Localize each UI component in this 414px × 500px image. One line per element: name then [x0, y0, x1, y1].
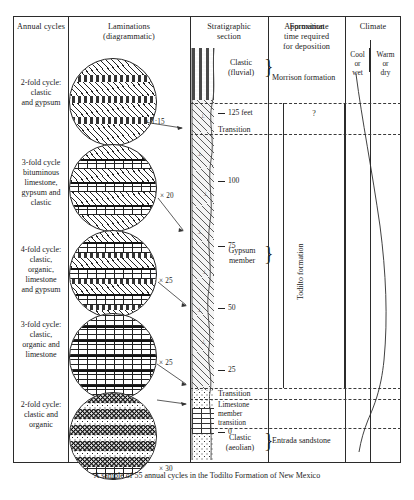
header-stratigraphic-line2: section	[191, 32, 267, 42]
climate-cool-or: or	[345, 59, 370, 68]
cycle-4fold-l1: 4-fold cycle:	[14, 245, 68, 255]
band-3fl-limestone-5	[69, 372, 157, 385]
header-approx-line1: Approximate	[267, 22, 346, 32]
header-laminations: Laminations (diagrammatic)	[70, 22, 188, 42]
brace-gypsum-member: }	[264, 243, 274, 263]
band-clastic-dash-3	[69, 117, 157, 124]
header-approximate-time-group: Approximate time required for deposition	[267, 22, 346, 52]
section-label-clastic-fluvial: Clastic (fluvial)	[218, 58, 264, 78]
tick-mark-125	[218, 113, 225, 114]
band-b-hatch-4	[69, 215, 157, 231]
band-4f-limestone-1	[69, 244, 157, 253]
gypsum-symbol-3: ⊥	[203, 190, 208, 197]
section-label-limestone-member-transition: Limestone member transition	[218, 400, 270, 427]
climate-warm-dry: dry	[371, 68, 400, 77]
tick-label-25: 25	[228, 365, 236, 374]
band-gypsum-hatch	[69, 59, 157, 75]
magnification-3fold-limestone: × 25	[159, 359, 173, 367]
header-laminations-line2: (diagrammatic)	[70, 32, 188, 42]
band-b-hatch-1	[69, 145, 157, 159]
gypsum-symbol-2: ⊥	[197, 150, 202, 157]
cycle-2fold-gypsum-l3: and gypsum	[14, 98, 68, 108]
climate-heading-divider	[369, 48, 370, 72]
gypsum-member-l2: member	[218, 256, 266, 266]
depth-tick-50: 50	[218, 303, 236, 312]
header-stratigraphic-section: Stratigraphic section	[191, 22, 267, 42]
depth-tick-25: 25	[218, 365, 236, 374]
entrada-sandstone-text: Entrada sandstone	[272, 436, 346, 446]
header-annual-cycles: Annual cycles	[14, 22, 68, 32]
strat-seg-clastic-fluvial	[192, 48, 214, 100]
boundary-transition-limestone	[190, 399, 401, 400]
depth-tick-125: 125 feet	[218, 108, 253, 117]
column-divider-2	[190, 16, 191, 463]
header-laminations-line1: Laminations	[70, 22, 188, 32]
band-gypsum-hatch-3	[69, 103, 157, 117]
header-annual-cycles-line1: Annual cycles	[14, 22, 68, 32]
depth-tick-100: 100	[218, 176, 239, 185]
band-gypsum-hatch-4	[69, 124, 157, 145]
tick-mark-100	[218, 181, 225, 182]
cycle-3fold-bit-l4: gypsum and	[14, 188, 68, 198]
cycle-2fold-org-l1: 2-fold cycle:	[14, 400, 68, 410]
band-4f-limestone-2	[69, 270, 157, 279]
header-stratigraphic-line1: Stratigraphic	[191, 22, 267, 32]
cycle-3fold-ls-l1: 3-fold cycle:	[14, 320, 68, 330]
climate-warm-or: or	[371, 59, 400, 68]
label-cycle-3fold-bituminous: 3-fold cycle bituminous limestone, gypsu…	[14, 158, 68, 208]
band-3fl-limestone-2	[69, 328, 157, 340]
band-b-limestone-2	[69, 184, 157, 192]
cycle-2fold-gypsum-l2: clastic	[14, 88, 68, 98]
band-b-limestone-3	[69, 207, 157, 215]
cycle-3fold-ls-l3: organic and	[14, 340, 68, 350]
cycle-4fold-l2: clastic,	[14, 255, 68, 265]
cycle-2fold-gypsum-l1: 2-fold cycle:	[14, 78, 68, 88]
band-3fl-limestone-4	[69, 357, 157, 370]
band-clastic-dash	[69, 75, 157, 82]
climate-warm: Warm	[371, 50, 400, 59]
figure-caption-text: A sample of 55 annual cycles in the Todi…	[94, 471, 320, 480]
band-2fo-organic-4	[69, 441, 157, 451]
cycle-4fold-l4: limestone	[14, 275, 68, 285]
limestone-member-l2: member	[218, 409, 270, 418]
band-2fo-organic-1	[69, 393, 157, 403]
boundary-limestone-entrada	[190, 428, 401, 429]
time-required-question-mark: ?	[283, 109, 345, 119]
gypsum-symbol-4: ⊥	[197, 228, 202, 235]
band-clastic-dash-2	[69, 96, 157, 103]
magnification-3fold-bituminous: × 20	[160, 192, 174, 200]
band-b-hatch-2	[69, 169, 157, 182]
header-climate-line1: Climate	[346, 22, 400, 32]
band-3fl-limestone-3	[69, 342, 157, 355]
magnification-2fold-gypsum: × 1:15	[145, 118, 165, 126]
cycle-3fold-bit-l1: 3-fold cycle	[14, 158, 68, 168]
cycle-2fold-org-l3: organic	[14, 420, 68, 430]
gypsum-symbol-1: ⊥	[200, 112, 205, 119]
cycle-3fold-bit-l2: bituminous	[14, 168, 68, 178]
label-cycle-3fold-limestone: 3-fold cycle: clastic, organic and limes…	[14, 320, 68, 360]
cycle-3fold-ls-l2: clastic,	[14, 330, 68, 340]
header-approx-line2: time required	[267, 32, 346, 42]
gypsum-member-l1: Gypsum	[218, 246, 266, 256]
label-cycle-2fold-gypsum: 2-fold cycle: clastic and gypsum	[14, 78, 68, 108]
cycle-3fold-bit-l5: clastic	[14, 198, 68, 208]
column-divider-3	[268, 16, 269, 463]
label-cycle-2fold-organic: 2-fold cycle: clastic and organic	[14, 400, 68, 430]
limestone-member-l3: transition	[218, 418, 270, 427]
boundary-gypsum-transition-lower	[190, 388, 401, 389]
clastic-fluvial-l2: (fluvial)	[218, 68, 264, 78]
tick-mark-50	[218, 308, 225, 309]
cycle-3fold-bit-l3: limestone,	[14, 178, 68, 188]
magnification-4fold: × 25	[159, 277, 173, 285]
band-2fo-organic-2	[69, 409, 157, 419]
column-divider-4	[345, 16, 346, 463]
cycle-2fold-org-l2: clastic and	[14, 410, 68, 420]
climate-cool-wet-label: Cool or wet	[345, 50, 370, 77]
time-required-box	[283, 103, 345, 388]
gypsum-symbol-7: ⊥	[201, 338, 206, 345]
strat-seg-gypsum-member	[192, 100, 214, 390]
transition-lower-l1: Transition	[218, 389, 268, 399]
band-gypsum-hatch-2	[69, 82, 157, 96]
time-required-unknown: ?	[283, 109, 345, 119]
climate-warm-dry-label: Warm or dry	[371, 50, 400, 77]
